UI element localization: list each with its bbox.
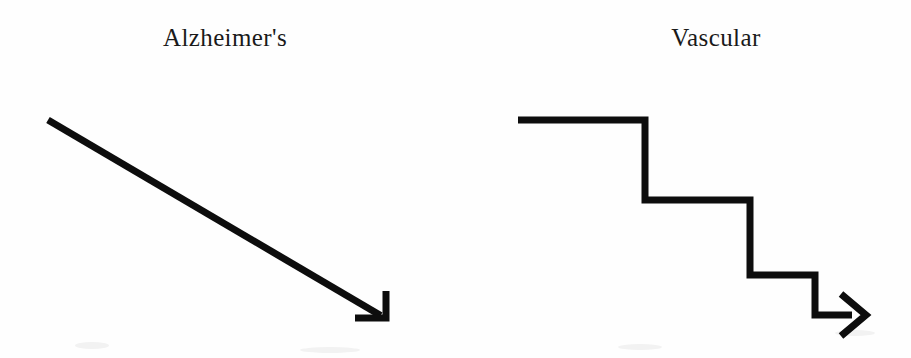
dementia-progression-figure: Alzheimer's Vascular — [0, 0, 911, 358]
alzheimers-decline-line — [48, 120, 381, 316]
vascular-stepwise-line — [518, 120, 852, 315]
alzheimers-decline-arrow — [48, 120, 386, 318]
vascular-stepwise-arrow — [518, 120, 866, 336]
trajectory-diagram — [0, 0, 911, 358]
